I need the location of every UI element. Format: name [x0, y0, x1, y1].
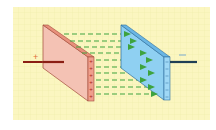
svg-text:+: +: [89, 79, 93, 85]
svg-text:+: +: [89, 58, 93, 64]
capacitor-diagram: + + + + + + +: [0, 0, 216, 130]
grid-background: [13, 7, 210, 120]
svg-text:+: +: [89, 65, 93, 71]
svg-text:+: +: [89, 86, 93, 92]
svg-text:+: +: [89, 72, 93, 78]
positive-charges: + + + + + +: [89, 58, 93, 99]
positive-label: +: [33, 52, 38, 62]
svg-text:+: +: [89, 93, 93, 99]
